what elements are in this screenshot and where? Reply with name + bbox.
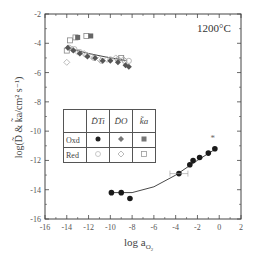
- open-diamond-marker: [64, 59, 70, 65]
- x-tick-label: -2: [194, 223, 201, 232]
- filled-circle-marker: [212, 146, 218, 152]
- x-tick-label: -4: [172, 223, 179, 232]
- open-square-marker: [84, 33, 89, 38]
- filled-circle-marker: [109, 190, 115, 196]
- filled-circle-marker: [127, 196, 133, 202]
- legend-label-oxd: Oxd: [64, 133, 87, 148]
- filled-square-marker: [75, 35, 80, 40]
- legend-row-oxd: Oxd: [64, 133, 156, 148]
- y-tick-label: -8: [34, 98, 41, 107]
- x-tick-label: -6: [151, 223, 158, 232]
- x-axis-label: log aO2: [124, 236, 153, 253]
- open-diamond-icon: [110, 148, 133, 163]
- filled-circle-marker: [190, 158, 196, 164]
- x-axis-label-text: log a: [124, 236, 146, 248]
- y-tick-label: -14: [30, 186, 41, 195]
- star-marker: *: [210, 133, 215, 143]
- filled-diamond-icon: [110, 133, 133, 148]
- legend-header-ka: k̃a: [133, 110, 156, 133]
- x-tick-label: 0: [217, 223, 221, 232]
- y-tick-label: -2: [34, 10, 41, 19]
- legend-header-do: D̃O: [110, 110, 133, 133]
- filled-square-icon: [133, 133, 156, 148]
- legend-row-red: Red: [64, 148, 156, 163]
- temperature-annotation: 1200°C: [197, 22, 231, 34]
- x-tick-label: 2: [239, 223, 243, 232]
- legend-header-dti: D̃Ti: [87, 110, 110, 133]
- y-tick-label: -6: [34, 69, 41, 78]
- y-tick-label: -4: [34, 39, 41, 48]
- x-tick-label: -14: [61, 223, 72, 232]
- filled-diamond-marker: [84, 53, 90, 59]
- filled-diamond-marker: [107, 58, 113, 64]
- y-tick-label: -16: [30, 215, 41, 224]
- filled-circle-marker: [118, 190, 124, 196]
- x-tick-label: -8: [129, 223, 136, 232]
- open-square-marker: [68, 38, 73, 43]
- filled-circle-icon: [87, 133, 110, 148]
- filled-circle-marker: [197, 155, 203, 161]
- x-tick-label: -10: [105, 223, 116, 232]
- legend-header-empty: [64, 110, 87, 133]
- y-tick-label: -10: [30, 127, 41, 136]
- legend-label-red: Red: [64, 148, 87, 163]
- filled-square-marker: [88, 33, 93, 38]
- open-square-icon: [133, 148, 156, 163]
- y-tick-label: -12: [30, 156, 41, 165]
- legend-table: D̃Ti D̃O k̃a Oxd Red: [63, 109, 156, 163]
- filled-circle-marker: [206, 150, 212, 156]
- x-tick-label: -12: [83, 223, 94, 232]
- x-tick-label: -16: [40, 223, 51, 232]
- y-axis-label: log(D̃ & k̃a/cm² s⁻¹): [13, 58, 24, 178]
- legend-header-row: D̃Ti D̃O k̃a: [64, 110, 156, 133]
- x-axis-label-sub2: 2: [151, 248, 154, 253]
- open-circle-icon: [87, 148, 110, 163]
